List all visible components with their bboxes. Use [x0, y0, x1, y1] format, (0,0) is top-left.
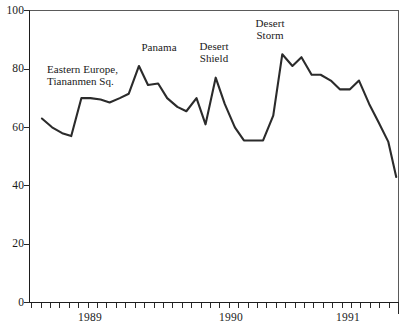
y-tick-label-40: 40	[0, 180, 24, 192]
annotation-desert-storm: Desert Storm	[248, 17, 292, 42]
annotation-desert-shield: Desert Shield	[192, 40, 236, 65]
y-tick-label-20: 20	[0, 238, 24, 250]
y-tick-label-100: 100	[0, 5, 24, 17]
x-tick-label-1990: 1990	[209, 312, 253, 324]
y-tick-label-80: 80	[0, 63, 24, 75]
annotation-panama: Panama	[133, 41, 185, 53]
approval-rating-chart: 100 80 60 40 20 0 1989 1990 1991 Eastern…	[0, 0, 405, 329]
annotation-eastern-europe: Eastern Europe, Tiananmen Sq.	[47, 63, 118, 88]
x-tick-label-1991: 1991	[326, 312, 370, 324]
y-tick-label-60: 60	[0, 122, 24, 134]
y-axis-ticks	[24, 11, 30, 303]
y-tick-label-0: 0	[0, 297, 24, 309]
x-tick-label-1989: 1989	[68, 312, 112, 324]
